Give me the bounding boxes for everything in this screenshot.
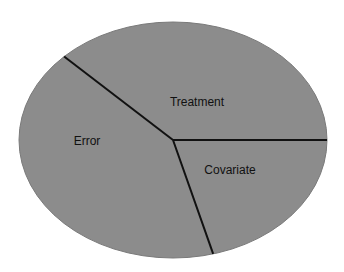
variance-partition-pie: Treatment Covariate Error (0, 0, 344, 272)
slice-label-treatment: Treatment (170, 95, 225, 109)
slice-label-covariate: Covariate (204, 163, 256, 177)
slice-label-error: Error (74, 134, 101, 148)
